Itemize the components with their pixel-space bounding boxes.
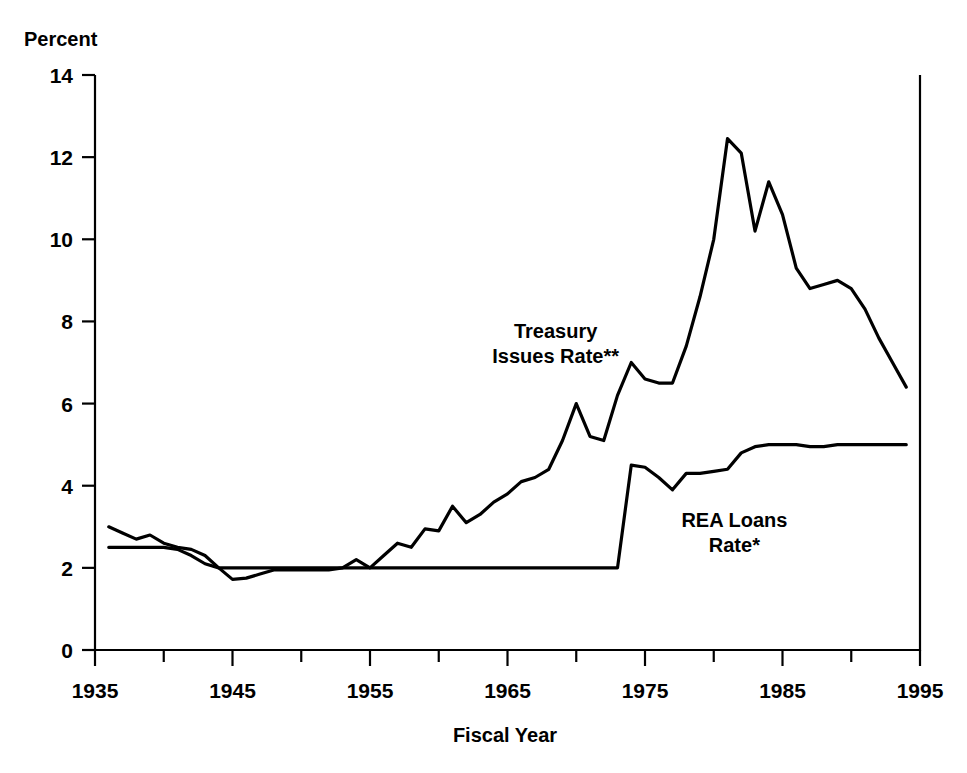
x-tick-label: 1985 xyxy=(759,679,806,702)
x-axis-ticks: 1935194519551965197519851995 xyxy=(72,650,944,702)
y-tick-label: 4 xyxy=(61,475,73,498)
y-tick-label: 10 xyxy=(50,228,73,251)
y-tick-label: 2 xyxy=(61,557,73,580)
line-chart: Percent 02468101214 19351945195519651975… xyxy=(0,0,967,773)
y-axis-ticks: 02468101214 xyxy=(50,64,95,662)
treasury-label-line1: Treasury xyxy=(514,320,598,342)
rea-label-line1: REA Loans xyxy=(681,509,787,531)
y-tick-label: 6 xyxy=(61,393,73,416)
y-tick-label: 12 xyxy=(50,146,73,169)
x-tick-label: 1975 xyxy=(622,679,669,702)
rea-label-line2: Rate* xyxy=(709,534,760,556)
x-tick-label: 1945 xyxy=(209,679,256,702)
y-tick-label: 0 xyxy=(61,639,73,662)
treasury-label-line2: Issues Rate** xyxy=(492,345,619,367)
x-axis-title: Fiscal Year xyxy=(453,724,557,746)
series-annotations: TreasuryIssues Rate**REA LoansRate* xyxy=(492,320,787,556)
x-tick-label: 1995 xyxy=(897,679,944,702)
x-tick-label: 1935 xyxy=(72,679,119,702)
x-tick-label: 1965 xyxy=(484,679,531,702)
y-axis-title-label: Percent xyxy=(24,28,98,50)
chart-container: Percent 02468101214 19351945195519651975… xyxy=(0,0,967,773)
x-tick-label: 1955 xyxy=(347,679,394,702)
y-tick-label: 14 xyxy=(50,64,74,87)
y-tick-label: 8 xyxy=(61,310,73,333)
series-line-rea-loans-rate xyxy=(109,445,907,568)
y-axis-title: Percent xyxy=(24,28,98,50)
